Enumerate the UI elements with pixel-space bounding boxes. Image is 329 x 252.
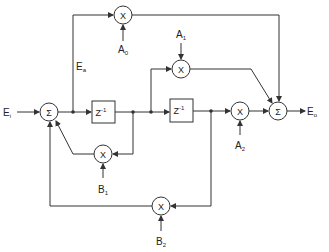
svg-text:Ei: Ei <box>3 107 11 119</box>
wire <box>151 69 171 112</box>
multiplier-a0: X <box>114 6 132 24</box>
multiplier-b2: X <box>152 197 170 215</box>
coef-b1-label: B1 <box>98 184 109 196</box>
svg-text:X: X <box>178 65 184 75</box>
coef-a1-label: A1 <box>176 29 187 41</box>
output-label: Eo <box>307 106 318 118</box>
coef-a2-label: A2 <box>235 140 246 152</box>
svg-text:X: X <box>120 11 126 21</box>
biquad-filter-diagram: Ei Σ Ea X A0 Z-1 X A1 X B1 <box>0 0 329 252</box>
svg-text:X: X <box>158 202 164 212</box>
multiplier-a2: X <box>231 102 249 120</box>
multiplier-a1: X <box>172 60 190 78</box>
intermediate-label: Ea <box>76 61 87 73</box>
wire <box>113 112 133 154</box>
delay-z1: Z-1 <box>92 101 115 123</box>
coef-b2-label: B2 <box>156 236 167 248</box>
wire <box>132 15 279 101</box>
svg-text:X: X <box>100 150 106 160</box>
wire <box>56 121 94 154</box>
svg-text:Σ: Σ <box>46 108 52 118</box>
svg-text:Σ: Σ <box>275 107 281 117</box>
wire <box>190 69 272 103</box>
multiplier-b1: X <box>94 145 112 163</box>
summer-1: Σ <box>40 103 58 121</box>
wire <box>171 111 211 206</box>
svg-text:X: X <box>237 107 243 117</box>
input-label: Ei <box>3 107 11 119</box>
coef-a0-label: A0 <box>118 44 129 56</box>
delay-z2: Z-1 <box>170 99 193 122</box>
summer-2: Σ <box>269 102 287 120</box>
svg-text:Ea: Ea <box>76 61 87 73</box>
